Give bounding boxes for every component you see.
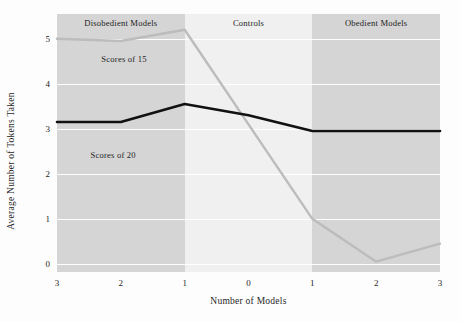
line-scores-of-15 xyxy=(57,30,440,262)
y-tick-label: 1 xyxy=(46,214,51,224)
y-tick-label: 5 xyxy=(46,34,51,44)
plot-area: Disobedient ModelsControlsObedient Model… xyxy=(57,14,440,272)
series-label: Scores of 20 xyxy=(90,150,135,160)
x-tick-label: 1 xyxy=(182,278,187,288)
series-label: Scores of 15 xyxy=(101,54,146,64)
x-tick-label: 3 xyxy=(438,278,443,288)
x-axis-title: Number of Models xyxy=(57,296,440,306)
y-tick-label: 4 xyxy=(46,79,51,89)
y-tick-label: 2 xyxy=(46,169,51,179)
x-tick-label: 3 xyxy=(55,278,60,288)
y-tick-label: 0 xyxy=(46,259,51,269)
y-axis-title: Average Number of Tokens Taken xyxy=(0,0,22,322)
x-tick-label: 1 xyxy=(310,278,315,288)
x-tick-label: 2 xyxy=(119,278,124,288)
line-scores-of-20 xyxy=(57,104,440,131)
y-tick-label: 3 xyxy=(46,124,51,134)
chart-figure: Average Number of Tokens Taken Disobedie… xyxy=(0,0,460,322)
x-tick-label: 2 xyxy=(374,278,379,288)
data-lines xyxy=(57,14,440,272)
x-tick-label: 0 xyxy=(246,278,251,288)
